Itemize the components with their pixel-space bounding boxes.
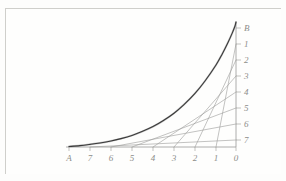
x-axis-label-1: 1 (214, 154, 219, 163)
figure-root: A76543210 B1234567 (0, 0, 286, 181)
x-axis-label-A: A (66, 154, 72, 163)
x-axis-label-4: 4 (151, 154, 156, 163)
y-axis-label-6: 6 (244, 120, 249, 129)
tangent-3 (132, 108, 236, 147)
axes-group (66, 22, 241, 151)
y-axis-label-B: B (244, 24, 250, 33)
envelope-curve-underlay (69, 22, 236, 147)
x-axis-label-3: 3 (172, 154, 177, 163)
envelope-curve-group (69, 22, 236, 147)
x-axis-label-5: 5 (130, 154, 135, 163)
y-axis-label-4: 4 (244, 88, 249, 97)
tangent-6 (195, 60, 236, 147)
x-axis-label-2: 2 (193, 154, 198, 163)
y-axis-label-1: 1 (244, 40, 249, 49)
y-axis-label-7: 7 (244, 136, 249, 145)
y-axis-label-2: 2 (244, 56, 249, 65)
x-axis-label-7: 7 (88, 154, 93, 163)
x-axis-label-0: 0 (234, 154, 239, 163)
y-axis-label-3: 3 (244, 72, 249, 81)
y-axis-label-5: 5 (244, 104, 249, 113)
x-axis-label-6: 6 (109, 154, 114, 163)
tangent-lines-group (90, 44, 236, 147)
